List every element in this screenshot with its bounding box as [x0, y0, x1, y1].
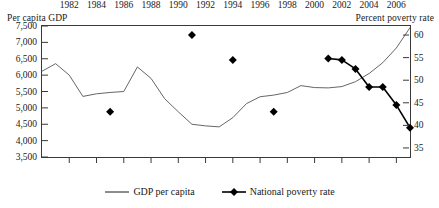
y2-tick-label: 60: [414, 30, 424, 40]
x-tick-label: 1996: [251, 0, 270, 10]
x-tick-label: 1982: [60, 0, 79, 10]
y2-tick-label: 55: [414, 53, 424, 63]
y-tick-label: 7,500: [16, 21, 37, 31]
y-tick-label: 5,500: [16, 87, 37, 97]
y2-tick-label: 35: [414, 143, 424, 153]
y-tick-label: 5,000: [16, 103, 37, 113]
figure: Per capita GDP Percent poverty rate 3,50…: [0, 0, 439, 208]
y2-tick-label: 50: [414, 75, 424, 85]
x-tick-label: 1994: [223, 0, 242, 10]
y2-tick-label: 45: [414, 98, 424, 108]
legend-label: National poverty rate: [250, 187, 335, 197]
x-tick-label: 2006: [387, 0, 406, 10]
y-tick-label: 3,500: [16, 152, 37, 162]
x-tick-label: 1984: [87, 0, 106, 10]
legend-item: GDP per capita: [104, 186, 194, 198]
x-tick-label: 1986: [114, 0, 133, 10]
y2-tick-label: 40: [414, 120, 424, 130]
y-tick-label: 6,500: [16, 54, 37, 64]
axis-ticks: [0, 0, 439, 208]
legend-item: National poverty rate: [221, 186, 335, 198]
x-tick-label: 1988: [142, 0, 161, 10]
legend-line-swatch: [104, 186, 130, 198]
x-tick-label: 2002: [332, 0, 351, 10]
x-tick-label: 2000: [305, 0, 324, 10]
x-tick-label: 1992: [196, 0, 215, 10]
x-tick-label: 2004: [360, 0, 379, 10]
legend-label: GDP per capita: [133, 187, 194, 197]
x-tick-label: 1998: [278, 0, 297, 10]
y-tick-label: 6,000: [16, 70, 37, 80]
y-tick-label: 4,500: [16, 119, 37, 129]
y-tick-label: 4,000: [16, 136, 37, 146]
y-tick-label: 7,000: [16, 37, 37, 47]
legend-line-diamond-swatch: [221, 186, 247, 198]
x-tick-label: 1990: [169, 0, 188, 10]
chart-legend: GDP per capitaNational poverty rate: [0, 186, 439, 198]
